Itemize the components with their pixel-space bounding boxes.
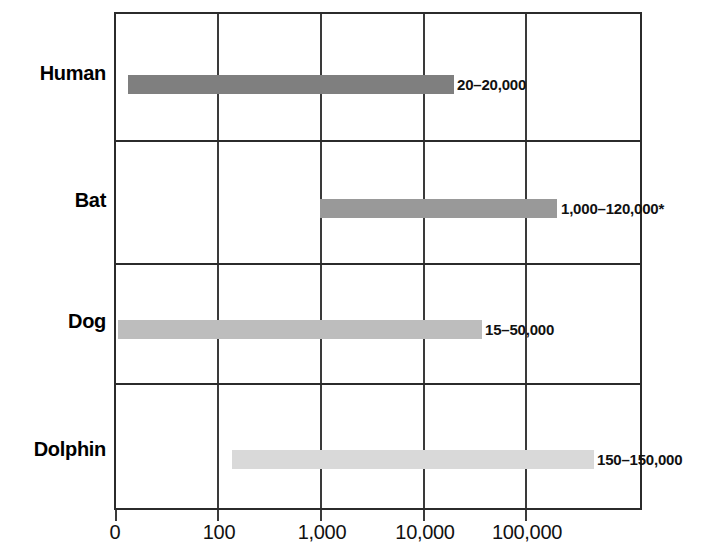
bar-dog	[118, 320, 482, 339]
x-tick-0	[115, 510, 117, 521]
gridline-horizontal-3	[116, 383, 640, 385]
bar-value-dolphin: 150–150,000	[597, 450, 682, 469]
bar-value-bat: 1,000–120,000*	[561, 199, 664, 218]
x-tick-1000	[320, 510, 322, 521]
bar-range-chart: Human Bat Dog Dolphin 20–20,000 1,000–12…	[0, 0, 704, 559]
category-axis: Human Bat Dog Dolphin	[0, 0, 106, 559]
x-label-100: 100	[203, 521, 235, 544]
x-tick-10000	[423, 510, 425, 521]
x-label-10000: 10,000	[395, 521, 454, 544]
x-label-0: 0	[110, 521, 121, 544]
gridline-horizontal-1	[116, 140, 640, 142]
gridline-horizontal-2	[116, 263, 640, 265]
bar-value-dog: 15–50,000	[485, 320, 554, 339]
x-tick-100	[217, 510, 219, 521]
x-label-100000: 100,000	[492, 521, 562, 544]
category-label-bat: Bat	[0, 189, 106, 211]
category-label-dog: Dog	[0, 310, 106, 332]
x-label-1000: 1,000	[298, 521, 347, 544]
bar-value-human: 20–20,000	[457, 75, 526, 94]
bar-dolphin	[232, 450, 594, 469]
category-label-dolphin: Dolphin	[0, 438, 106, 460]
x-tick-100000	[525, 510, 527, 521]
bar-bat	[320, 199, 557, 218]
category-label-human: Human	[0, 62, 106, 84]
bar-human	[128, 75, 454, 94]
